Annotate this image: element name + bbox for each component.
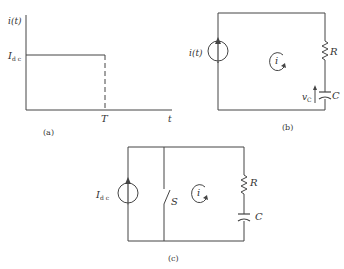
wire-loop bbox=[218, 13, 325, 40]
capacitor-icon bbox=[238, 214, 250, 221]
switch-blade-icon bbox=[164, 190, 170, 204]
panel-c-caption: (c) bbox=[168, 254, 179, 263]
source-label: i(t) bbox=[189, 48, 203, 58]
panel-a-caption: (a) bbox=[43, 128, 54, 137]
capacitor-label: C bbox=[255, 211, 263, 222]
resistor-label: R bbox=[329, 46, 338, 57]
x-axis-label: t bbox=[168, 114, 172, 124]
resistor-icon bbox=[322, 38, 328, 62]
panel-b-caption: (b) bbox=[282, 123, 293, 132]
voltage-arrowhead-icon bbox=[313, 85, 317, 90]
capacitor-label: C bbox=[332, 90, 340, 101]
current-source-icon bbox=[208, 37, 228, 63]
level-label: Id c bbox=[7, 50, 22, 62]
y-axis-label: i(t) bbox=[8, 16, 22, 26]
figure: i(t) Id c T t (a) i(t) R C vC bbox=[0, 0, 344, 269]
panel-b-circuit: i(t) R C vC i (b) bbox=[189, 13, 340, 132]
resistor-icon bbox=[241, 172, 247, 196]
wire-top bbox=[128, 147, 244, 181]
wire-bottom bbox=[128, 205, 244, 241]
resistor-label: R bbox=[249, 177, 258, 188]
panel-c-circuit: S Id c R C i (c) bbox=[95, 147, 263, 263]
loop-current-label: i bbox=[197, 187, 200, 198]
capacitor-voltage-label: vC bbox=[302, 92, 312, 103]
dc-current-source-icon bbox=[118, 177, 138, 205]
source-label: Id c bbox=[95, 189, 110, 201]
loop-current-label: i bbox=[275, 55, 278, 66]
switch-label: S bbox=[171, 196, 178, 207]
capacitor-icon bbox=[319, 92, 331, 99]
panel-a-pulse-plot: i(t) Id c T t (a) bbox=[7, 15, 172, 137]
x-tick-label-T: T bbox=[101, 113, 109, 124]
